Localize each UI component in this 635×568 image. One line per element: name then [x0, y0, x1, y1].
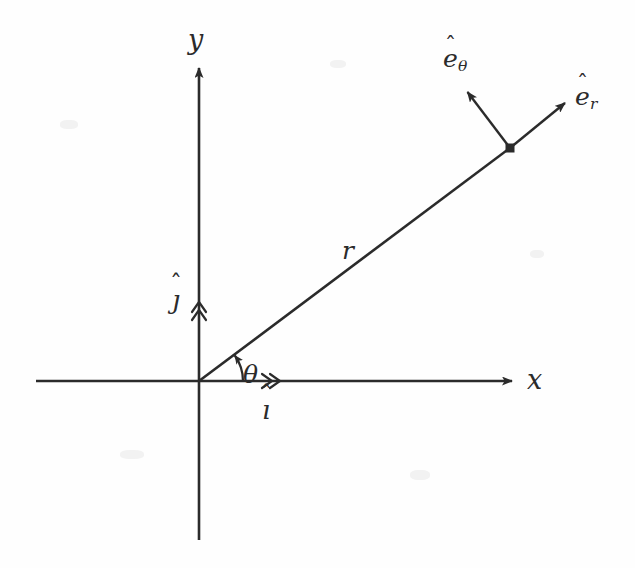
e-theta-vector [468, 92, 511, 148]
hat-accent-etheta: ˆ [445, 34, 457, 57]
radial-line [199, 148, 510, 381]
y-axis-label: y [188, 26, 203, 53]
e-theta-label: ˆ e θ [443, 46, 467, 71]
e-theta-subscript: θ [458, 57, 467, 75]
figure-canvas: y x r θ ˆ ı ˆ ȷ ˆ e r ˆ e θ [0, 0, 635, 568]
e-hat-glyph-r: ˆ e [575, 84, 590, 109]
j-hat-label: ˆ ȷ [172, 287, 180, 313]
hat-accent-j: ˆ [170, 273, 182, 297]
radial-length-label: r [342, 238, 354, 263]
i-hat-label: ˆ ı [262, 397, 270, 423]
e-r-subscript: r [590, 95, 597, 113]
theta-arc [235, 356, 243, 382]
i-hat-glyph: ˆ ı [262, 397, 270, 423]
j-hat-glyph: ˆ ȷ [172, 287, 180, 313]
hat-accent-er: ˆ [577, 72, 589, 95]
x-axis-label: x [527, 366, 542, 393]
e-r-label: ˆ e r [575, 84, 597, 109]
e-r-vector [510, 103, 565, 148]
diagram-svg [0, 0, 635, 568]
hat-accent-i: ˆ [260, 384, 272, 408]
theta-angle-label: θ [243, 362, 258, 387]
e-hat-glyph-theta: ˆ e [443, 46, 458, 71]
